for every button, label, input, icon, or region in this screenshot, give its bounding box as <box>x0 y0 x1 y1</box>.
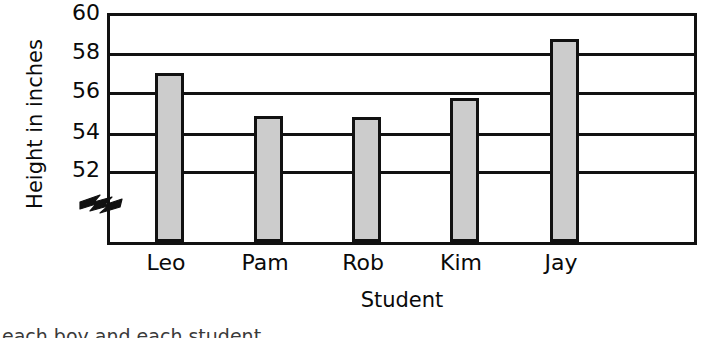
bar-chart: Height in inches 60 58 56 54 52 Leo Pam … <box>0 0 702 338</box>
y-tick-label-60: 60 <box>48 2 100 24</box>
gridline-54 <box>110 133 694 136</box>
cropped-caption: each boy and each student <box>2 327 302 338</box>
x-axis-title: Student <box>107 288 697 312</box>
x-tick-label-jay: Jay <box>501 250 621 276</box>
bar-leo <box>155 73 184 242</box>
gridline-52 <box>110 171 694 174</box>
bar-jay <box>550 39 579 242</box>
bar-kim <box>450 98 479 242</box>
bar-rob <box>352 117 381 242</box>
bar-pam <box>254 116 283 242</box>
y-tick-label-56: 56 <box>48 80 100 102</box>
gridline-58 <box>110 53 694 56</box>
y-tick-label-58: 58 <box>48 41 100 63</box>
gridline-56 <box>110 92 694 95</box>
axis-break-zigzag-icon <box>78 186 140 220</box>
x-axis-tick-labels: Leo Pam Rob Kim Jay <box>107 250 697 280</box>
y-tick-label-52: 52 <box>48 159 100 181</box>
y-tick-label-54: 54 <box>48 121 100 143</box>
plot-area <box>107 13 697 245</box>
